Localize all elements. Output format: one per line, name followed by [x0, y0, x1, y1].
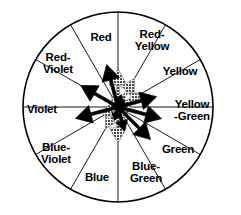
color-wheel-figure: Red-YellowYellowYellow-GreenGreenBlue-Gr… [0, 0, 241, 215]
color-wheel-graphic [0, 0, 241, 215]
